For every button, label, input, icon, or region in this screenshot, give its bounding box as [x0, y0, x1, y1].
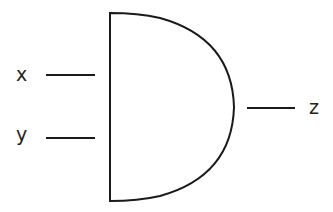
and-gate-body [110, 13, 234, 201]
input-y-label: y [16, 123, 27, 145]
input-x-label: x [16, 63, 27, 85]
and-gate-diagram: x y z [0, 0, 333, 212]
output-z-label: z [309, 96, 319, 118]
diagram-svg: x y z [0, 0, 333, 212]
